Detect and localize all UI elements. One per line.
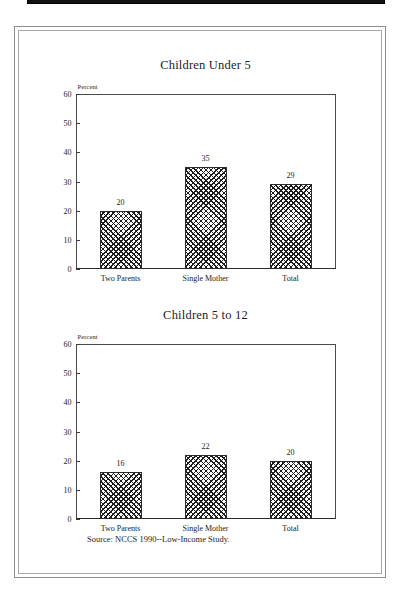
y-axis-tick-label: 20 [32,456,72,465]
y-axis-tick-mark [76,123,80,124]
bar-value-label: 29 [287,171,295,180]
y-axis-tick-mark [76,94,80,95]
y-axis-tick-mark [76,490,80,491]
y-axis-tick-label: 0 [32,515,72,524]
x-axis-category-label: Total [282,274,298,283]
y-axis-unit-label: Percent [78,83,98,90]
y-axis-tick-mark [76,240,80,241]
y-axis-tick-label: 60 [32,90,72,99]
y-axis-tick-mark [76,269,80,270]
bar [100,211,142,269]
bar-value-label: 20 [117,198,125,207]
y-axis-tick-label: 20 [32,206,72,215]
bar-value-label: 16 [117,459,125,468]
y-axis-tick-label: 30 [32,177,72,186]
y-axis-tick-label: 40 [32,148,72,157]
y-axis-tick-mark [76,519,80,520]
y-axis-tick-mark [76,211,80,212]
x-axis-category-label: Single Mother [183,274,229,283]
y-axis-tick-label: 10 [32,485,72,494]
y-axis-tick-label: 50 [32,119,72,128]
y-axis-tick-label: 0 [32,265,72,274]
y-axis-unit-label: Percent [78,333,98,340]
y-axis-tick-mark [76,461,80,462]
bar [185,455,227,519]
bar-value-label: 22 [202,442,210,451]
plot-area: Percent 010203040506016Two Parents22Sing… [76,344,336,519]
y-axis-tick-label: 40 [32,398,72,407]
y-axis-tick-label: 10 [32,235,72,244]
plot-area: Percent 010203040506020Two Parents35Sing… [76,94,336,269]
chart-children-5-to-12: Children 5 to 12 Percent 010203040506016… [0,308,411,519]
x-axis-category-label: Two Parents [101,274,141,283]
source-note: Source: NCCS 1990--Low-Income Study. [87,534,230,544]
bar-value-label: 35 [202,154,210,163]
y-axis-tick-mark [76,182,80,183]
y-axis-tick-label: 60 [32,340,72,349]
bar [270,461,312,519]
bar-value-label: 20 [287,448,295,457]
bar [185,167,227,269]
bar [270,184,312,269]
x-axis-category-label: Single Mother [183,524,229,533]
chart-title: Children Under 5 [0,58,411,73]
x-axis-category-label: Total [282,524,298,533]
y-axis-tick-label: 50 [32,369,72,378]
bar [100,472,142,519]
chart-title: Children 5 to 12 [0,308,411,323]
y-axis-tick-mark [76,152,80,153]
y-axis-tick-mark [76,402,80,403]
y-axis-tick-mark [76,373,80,374]
x-axis-category-label: Two Parents [101,524,141,533]
y-axis-tick-mark [76,344,80,345]
window-title-bar [27,0,385,4]
chart-children-under-5: Children Under 5 Percent 010203040506020… [0,58,411,269]
y-axis-tick-mark [76,432,80,433]
y-axis-tick-label: 30 [32,427,72,436]
